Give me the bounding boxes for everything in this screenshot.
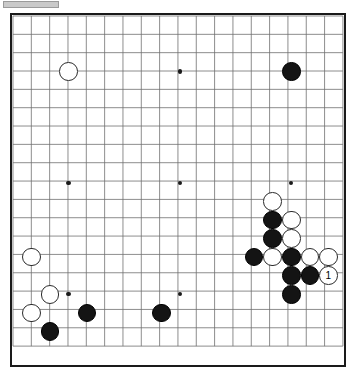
stone-white[interactable] [282,229,301,248]
stone-white[interactable] [22,248,41,267]
stone-black[interactable] [282,266,301,285]
stone-white[interactable] [59,62,78,81]
stone-white[interactable] [282,211,301,230]
stone-black[interactable] [263,229,282,248]
stone-white-move-1[interactable]: 1 [319,266,338,285]
stone-move-number: 1 [326,271,332,281]
stone-white[interactable] [319,248,338,267]
stone-white[interactable] [263,192,282,211]
stone-black[interactable] [152,304,171,323]
star-point [66,181,70,185]
stone-white[interactable] [22,304,41,323]
stone-black[interactable] [41,322,60,341]
stone-white[interactable] [41,285,60,304]
stone-black[interactable] [282,248,301,267]
go-board-container: 1 [0,0,357,377]
stone-black[interactable] [282,62,301,81]
stone-black[interactable] [301,266,320,285]
stone-black[interactable] [263,211,282,230]
star-point [178,69,182,73]
go-board[interactable]: 1 [10,13,346,367]
stone-black[interactable] [282,285,301,304]
